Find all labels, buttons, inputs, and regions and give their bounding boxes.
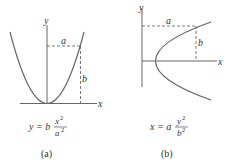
svg-text:y: y	[176, 116, 181, 126]
y-axis-label: y	[43, 15, 49, 26]
svg-text:2: 2	[61, 126, 64, 133]
svg-text:a: a	[55, 128, 60, 138]
x-axis-label: x	[217, 56, 223, 67]
equation-b: x = a y 2 b 2	[149, 114, 188, 138]
x-axis-label: x	[97, 98, 103, 109]
svg-text:x = a: x = a	[149, 121, 171, 132]
figure: y x a b y = b x 2 a 2 (a) y x a b x = a …	[0, 0, 226, 167]
svg-text:y = b: y = b	[28, 121, 50, 132]
dim-label-b: b	[82, 73, 87, 84]
dim-label-a: a	[61, 35, 66, 46]
y-axis-label: y	[138, 2, 144, 13]
dim-label-b: b	[198, 37, 203, 48]
caption-a: (a)	[41, 148, 52, 160]
svg-text:2: 2	[60, 114, 63, 121]
svg-text:x: x	[54, 116, 59, 126]
panel-a: y x a b y = b x 2 a 2 (a)	[10, 15, 103, 160]
dim-label-a: a	[166, 15, 171, 26]
panel-b: y x a b x = a y 2 b 2 (b)	[138, 2, 223, 160]
svg-text:2: 2	[182, 114, 185, 121]
equation-a: y = b x 2 a 2	[28, 114, 67, 138]
caption-b: (b)	[161, 148, 173, 160]
svg-text:2: 2	[182, 126, 185, 133]
